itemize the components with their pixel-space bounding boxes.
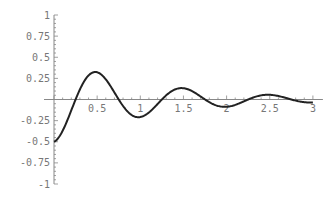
y-tick-label: -0.5 [26,136,50,147]
x-tick-label: 1.5 [174,103,192,114]
x-tick-label: 2 [224,103,230,114]
y-tick-label: 0.75 [26,31,50,42]
y-tick-label: -1 [38,179,50,190]
y-tick-label: 0.5 [32,52,50,63]
y-tick-label: 0.25 [26,73,50,84]
y-tick-label: 1 [44,10,50,21]
x-tick-label: 0.5 [88,103,106,114]
plot: 10.750.50.25-0.25-0.5-0.75-10.511.522.53 [0,0,336,201]
x-tick-label: 1 [137,103,143,114]
x-tick-label: 3 [310,103,316,114]
y-tick-label: -0.25 [20,115,50,126]
axes: 10.750.50.25-0.25-0.5-0.75-10.511.522.53 [20,10,323,190]
x-tick-label: 2.5 [261,103,279,114]
y-tick-label: -0.75 [20,157,50,168]
